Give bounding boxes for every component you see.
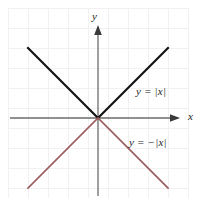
y-axis-arrow xyxy=(94,25,102,35)
y-axis-label: y xyxy=(92,10,97,22)
plot-canvas xyxy=(0,0,207,206)
curve-label-y-equals-neg-abs-x: y = −|x| xyxy=(129,136,167,148)
curve-label-y-equals-abs-x: y = |x| xyxy=(136,85,166,97)
x-axis-arrow xyxy=(170,114,180,122)
absolute-value-graph-figure: y = |x| y = −|x| x y xyxy=(0,0,207,206)
x-axis-label: x xyxy=(188,110,193,122)
axes xyxy=(10,27,178,196)
